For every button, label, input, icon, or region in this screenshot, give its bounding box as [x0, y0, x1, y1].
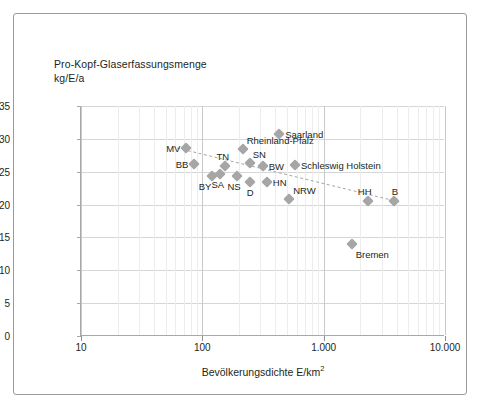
- data-point-marker[interactable]: [257, 161, 268, 172]
- gridline-horizontal: [81, 106, 444, 107]
- plot-area: 05101520253035 101001.00010.000 MVBBBYSA…: [80, 106, 444, 336]
- gridline-vertical-minor: [197, 106, 198, 335]
- x-tick-mark: [81, 336, 82, 341]
- gridline-vertical-minor: [318, 106, 319, 335]
- data-point-label: HN: [273, 177, 287, 188]
- y-tick-label: 20: [0, 199, 10, 210]
- data-point-marker[interactable]: [289, 159, 300, 170]
- gridline-vertical-minor: [191, 106, 192, 335]
- gridline-vertical-minor: [397, 106, 398, 335]
- data-point-label: B: [392, 186, 398, 197]
- data-point-label: SN: [253, 148, 266, 159]
- gridline-horizontal: [81, 237, 444, 238]
- data-point-label: MV: [166, 143, 180, 154]
- data-point-label: D: [247, 187, 254, 198]
- gridline-vertical-minor: [433, 106, 434, 335]
- y-tick-label: 25: [0, 166, 10, 177]
- y-tick-label: 5: [0, 298, 10, 309]
- data-point-label: Schleswig Holstein: [301, 160, 381, 171]
- y-tick-mark: [77, 237, 81, 238]
- gridline-vertical-minor: [439, 106, 440, 335]
- gridline-horizontal: [81, 303, 444, 304]
- data-point-label: NS: [228, 181, 241, 192]
- data-point-label: BY: [199, 181, 212, 192]
- gridline-vertical-minor: [382, 106, 383, 335]
- data-point-label: BB: [176, 158, 189, 169]
- x-axis-label-exponent: 2: [320, 364, 324, 373]
- gridline-vertical-minor: [426, 106, 427, 335]
- gridline-horizontal: [81, 172, 444, 173]
- data-point-label: BW: [269, 161, 284, 172]
- gridline-horizontal: [81, 270, 444, 271]
- gridline-vertical-minor: [408, 106, 409, 335]
- gridline-horizontal: [81, 205, 444, 206]
- y-tick-label: 35: [0, 101, 10, 112]
- x-tick-label: 100: [194, 342, 211, 353]
- gridline-vertical-major: [324, 106, 325, 335]
- gridline-vertical-major: [81, 106, 82, 335]
- y-tick-mark: [77, 139, 81, 140]
- gridline-vertical-minor: [360, 106, 361, 335]
- gridline-vertical-minor: [166, 106, 167, 335]
- x-tick-mark: [445, 336, 446, 341]
- x-tick-label: 1.000: [311, 342, 336, 353]
- gridline-vertical-major: [202, 106, 203, 335]
- gridline-vertical-minor: [139, 106, 140, 335]
- x-tick-mark: [202, 336, 203, 341]
- y-tick-label: 10: [0, 265, 10, 276]
- gridline-vertical-major: [445, 106, 446, 335]
- gridline-vertical-minor: [118, 106, 119, 335]
- data-point-label: TN: [216, 151, 229, 162]
- y-tick-label: 30: [0, 133, 10, 144]
- y-tick-mark: [77, 303, 81, 304]
- x-axis-label-text: Bevölkerungsdichte E/km: [202, 366, 320, 378]
- data-point-label: Saarland: [285, 128, 323, 139]
- x-tick-mark: [324, 336, 325, 341]
- gridline-vertical-minor: [184, 106, 185, 335]
- y-tick-mark: [77, 270, 81, 271]
- data-point-label: Bremen: [356, 249, 389, 260]
- chart-title: Pro-Kopf-Glaserfassungsmenge kg/E/a: [54, 58, 207, 85]
- x-tick-label: 10.000: [430, 342, 461, 353]
- gridline-vertical-minor: [175, 106, 176, 335]
- y-tick-mark: [77, 205, 81, 206]
- chart-frame: Pro-Kopf-Glaserfassungsmenge kg/E/a 0510…: [13, 13, 467, 395]
- x-tick-label: 10: [75, 342, 86, 353]
- data-point-label: HH: [358, 186, 372, 197]
- y-tick-label: 0: [0, 331, 10, 342]
- data-point-marker[interactable]: [261, 177, 272, 188]
- x-axis-label: Bevölkerungsdichte E/km2: [81, 364, 445, 378]
- y-tick-label: 15: [0, 232, 10, 243]
- y-tick-mark: [77, 172, 81, 173]
- data-point-label: SA: [211, 179, 224, 190]
- gridline-vertical-minor: [239, 106, 240, 335]
- y-tick-mark: [77, 106, 81, 107]
- data-point-label: NRW: [293, 184, 316, 195]
- gridline-vertical-minor: [154, 106, 155, 335]
- gridline-vertical-minor: [418, 106, 419, 335]
